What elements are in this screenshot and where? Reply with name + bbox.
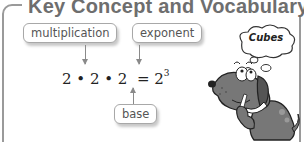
multiplication-arrow <box>85 45 86 64</box>
base-arrow <box>133 88 134 104</box>
panel-title: Key Concept and Vocabulary <box>22 0 304 16</box>
equation-base: 2 <box>154 70 164 88</box>
equation: 2 • 2 • 2 = 23 <box>62 70 170 88</box>
equation-product: 2 • 2 • 2 <box>62 70 127 88</box>
thought-bubble-text: Cubes <box>242 32 290 43</box>
equation-equals: = <box>137 70 150 88</box>
base-label: base <box>114 104 157 124</box>
equation-exponent: 3 <box>164 68 170 78</box>
multiplication-label: multiplication <box>23 23 117 43</box>
exponent-arrow <box>139 45 140 64</box>
exponent-label: exponent <box>132 23 202 43</box>
dog-icon <box>208 62 299 140</box>
